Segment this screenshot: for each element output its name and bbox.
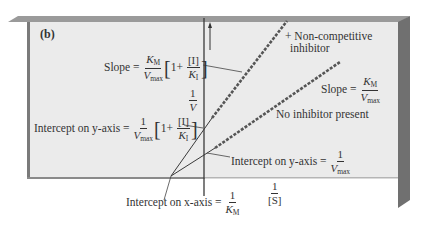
x-axis-label: 1 [S] xyxy=(267,181,282,206)
inhibited-series-label: + Non-competitive inhibitor xyxy=(285,30,372,54)
y-axis-label: 1 V xyxy=(188,88,198,113)
panel-bottom-edge xyxy=(27,177,205,179)
intercept-y-uninhibited-annotation: Intercept on y-axis = 1 Vmax xyxy=(231,149,351,176)
inhibited-label-line2: inhibitor xyxy=(285,42,372,54)
slope-prefix: Slope = xyxy=(104,61,140,73)
uninhibited-series-label: No inhibitor present xyxy=(276,109,369,121)
panel-right-edge xyxy=(398,16,410,208)
slope-inhibited-annotation: Slope = KM Vmax [1+ [I] KI ] xyxy=(104,54,208,82)
panel-label: (b) xyxy=(40,28,55,40)
i-over-ki-fraction: [I] KI xyxy=(187,55,200,82)
panel-left-edge xyxy=(27,22,30,179)
panel-top-edge xyxy=(8,16,410,22)
slope-uninhibited-annotation: Slope = KM Vmax xyxy=(321,76,381,104)
inhibited-label-line1: + Non-competitive xyxy=(285,30,372,42)
km-over-vmax-fraction: KM Vmax xyxy=(143,54,163,82)
intercept-y-inhibited-annotation: Intercept on y-axis = 1 Vmax [1+ [I] KI … xyxy=(34,116,198,143)
panel-bottom-edge-right xyxy=(204,177,400,179)
intercept-x-annotation: Intercept on x-axis = 1 KM xyxy=(126,190,240,217)
